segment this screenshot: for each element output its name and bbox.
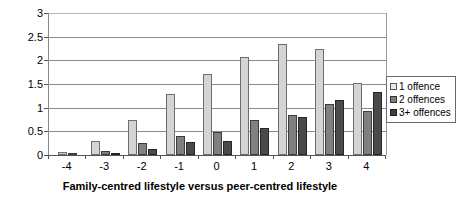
legend-label: 3+ offences: [399, 108, 451, 118]
x-axis-tick-label: -4: [62, 161, 72, 172]
y-axis-tick-label: 1: [37, 102, 43, 113]
bar: [68, 153, 77, 155]
x-axis-tick-mark: [348, 155, 349, 159]
bar: [335, 100, 344, 155]
bar-group: [236, 13, 273, 155]
bar-group: [161, 13, 198, 155]
legend-swatch-icon: [390, 83, 397, 90]
bar-chart-figure: 00.511.522.53 Family-centred lifestyle v…: [0, 0, 469, 203]
legend-swatch-icon: [390, 109, 397, 116]
x-axis-tick-mark: [123, 155, 124, 159]
bar-group: [86, 13, 123, 155]
x-axis-tick-label: 2: [288, 161, 294, 172]
bar-group: [349, 13, 386, 155]
bar: [128, 120, 137, 155]
bar: [138, 143, 147, 155]
bar: [240, 57, 249, 155]
bar: [176, 136, 185, 155]
bar: [223, 141, 232, 155]
x-axis-tick-label: 4: [363, 161, 369, 172]
x-axis-title: Family-centred lifestyle versus peer-cen…: [0, 180, 400, 192]
bar: [363, 111, 372, 155]
bar: [101, 151, 110, 155]
bar: [353, 83, 362, 155]
bar: [203, 74, 212, 155]
bar: [250, 120, 259, 155]
x-axis-tick-mark: [273, 155, 274, 159]
bar-group: [311, 13, 348, 155]
y-axis-tick-label: 0: [37, 150, 43, 161]
legend-item: 1 offence: [390, 80, 451, 93]
bar: [148, 149, 157, 155]
x-axis-tick-mark: [198, 155, 199, 159]
legend-item: 2 offences: [390, 93, 451, 106]
x-axis-tick-label: 1: [251, 161, 257, 172]
bar: [315, 49, 324, 155]
bar: [186, 142, 195, 155]
bar: [111, 153, 120, 155]
bar: [278, 44, 287, 155]
plot-area: [48, 13, 386, 156]
y-axis-tick-mark: [44, 13, 48, 14]
bar: [325, 104, 334, 155]
y-axis-tick-mark: [44, 131, 48, 132]
y-axis-tick-mark: [44, 60, 48, 61]
y-axis-label-group: 00.511.522.53: [0, 0, 43, 203]
x-axis-tick-label: 0: [213, 161, 219, 172]
x-axis-tick-mark: [310, 155, 311, 159]
x-axis-tick-label: 3: [326, 161, 332, 172]
legend-swatch-icon: [390, 96, 397, 103]
bar: [166, 94, 175, 155]
x-axis-tick-mark: [385, 155, 386, 159]
x-axis-tick-mark: [160, 155, 161, 159]
bar: [298, 117, 307, 155]
y-axis-tick-label: 3: [37, 8, 43, 19]
y-axis-tick-label: 2: [37, 55, 43, 66]
bar: [213, 132, 222, 155]
x-axis-tick-mark: [48, 155, 49, 159]
bar-group: [199, 13, 236, 155]
bar-group: [49, 13, 86, 155]
chart-legend: 1 offence2 offences3+ offences: [386, 76, 456, 123]
bar-group: [124, 13, 161, 155]
x-axis-tick-label: -3: [99, 161, 109, 172]
bar: [288, 115, 297, 155]
x-axis-tick-label: -2: [137, 161, 147, 172]
x-axis-tick-mark: [85, 155, 86, 159]
y-axis-tick-label: 0.5: [28, 126, 43, 137]
y-axis-tick-label: 2.5: [28, 31, 43, 42]
bar: [260, 128, 269, 155]
y-axis-tick-mark: [44, 37, 48, 38]
legend-label: 1 offence: [399, 82, 440, 92]
legend-label: 2 offences: [399, 95, 445, 105]
x-axis-tick-label: -1: [174, 161, 184, 172]
bar: [373, 92, 382, 155]
x-axis-tick-mark: [235, 155, 236, 159]
bar-group: [274, 13, 311, 155]
y-axis-tick-mark: [44, 108, 48, 109]
y-axis-tick-label: 1.5: [28, 79, 43, 90]
bar: [58, 152, 67, 155]
bar: [91, 141, 100, 155]
y-axis-tick-mark: [44, 84, 48, 85]
legend-item: 3+ offences: [390, 106, 451, 119]
